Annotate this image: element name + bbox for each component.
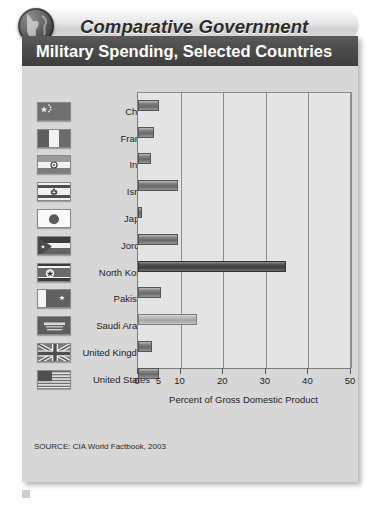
x-tick xyxy=(222,368,223,374)
bar-row xyxy=(138,92,351,119)
flag-north-korea-icon xyxy=(37,263,71,282)
bar-row xyxy=(138,253,351,280)
flag-cell xyxy=(30,366,78,393)
flag-cell xyxy=(30,152,78,179)
flag-cell xyxy=(30,259,78,286)
x-tick-label: 20 xyxy=(217,375,228,386)
x-tick xyxy=(265,368,266,374)
flag-united-states-icon xyxy=(37,370,71,389)
figure-caption xyxy=(22,489,362,499)
chart-title: Military Spending, Selected Countries xyxy=(22,36,358,66)
bar-row xyxy=(138,280,351,307)
x-axis-tick-labels: 051020304050 xyxy=(137,375,350,389)
bar-row xyxy=(138,172,351,199)
x-tick-label: 5 xyxy=(156,375,161,386)
flag-cell xyxy=(30,125,78,152)
x-tick xyxy=(350,368,351,374)
x-tick xyxy=(137,368,138,374)
flag-cell xyxy=(30,339,78,366)
bar-india xyxy=(138,153,151,164)
x-tick xyxy=(307,368,308,374)
x-axis-title: Percent of Gross Domestic Product xyxy=(137,394,350,405)
bar-israel xyxy=(138,180,178,191)
x-tick xyxy=(158,368,159,374)
chart-card: Military Spending, Selected Countries xyxy=(22,36,358,482)
flag-saudi-arabia-icon xyxy=(37,316,71,335)
flag-cell xyxy=(30,205,78,232)
caption-bullet-icon xyxy=(22,490,30,498)
gridline xyxy=(351,92,352,368)
bar-saudi-arabia xyxy=(138,314,197,325)
bar-row xyxy=(138,333,351,360)
flag-cell xyxy=(30,232,78,259)
flag-cell xyxy=(30,98,78,125)
x-tick-label: 0 xyxy=(134,375,139,386)
bar-china xyxy=(138,100,159,111)
banner-title: Comparative Government xyxy=(80,16,308,38)
flag-pakistan-icon xyxy=(37,289,71,308)
flag-jordan-icon xyxy=(37,236,71,255)
bar-row xyxy=(138,306,351,333)
x-tick-label: 40 xyxy=(302,375,313,386)
chart-body: China France India Israel Japan Jordan N… xyxy=(22,68,358,482)
chart-figure: Comparative Government Military Spending… xyxy=(0,0,384,507)
source-note: SOURCE: CIA World Factbook, 2003 xyxy=(34,442,166,451)
bar-france xyxy=(138,127,154,138)
flag-cell xyxy=(30,312,78,339)
bar-united-kingdom xyxy=(138,341,152,352)
flag-france-icon xyxy=(37,129,71,148)
plot-grid xyxy=(137,92,351,369)
bar-japan xyxy=(138,207,142,218)
bar-pakistan xyxy=(138,287,161,298)
bar-series xyxy=(138,92,351,368)
bar-jordan xyxy=(138,234,178,245)
x-tick-label: 30 xyxy=(260,375,271,386)
bar-row xyxy=(138,226,351,253)
plot-area: China France India Israel Japan Jordan N… xyxy=(22,68,358,482)
flag-japan-icon xyxy=(37,209,71,228)
flag-china-icon xyxy=(37,102,71,121)
flag-israel-icon xyxy=(37,182,71,201)
flag-cell xyxy=(30,286,78,313)
flag-cell xyxy=(30,178,78,205)
bar-row xyxy=(138,199,351,226)
bar-north-korea xyxy=(138,261,286,272)
x-tick-label: 50 xyxy=(345,375,356,386)
x-tick xyxy=(180,368,181,374)
flag-united-kingdom-icon xyxy=(37,343,71,362)
x-tick-label: 10 xyxy=(174,375,185,386)
bar-row xyxy=(138,119,351,146)
flag-india-icon xyxy=(37,155,71,174)
bar-row xyxy=(138,146,351,173)
flag-column xyxy=(30,98,78,393)
